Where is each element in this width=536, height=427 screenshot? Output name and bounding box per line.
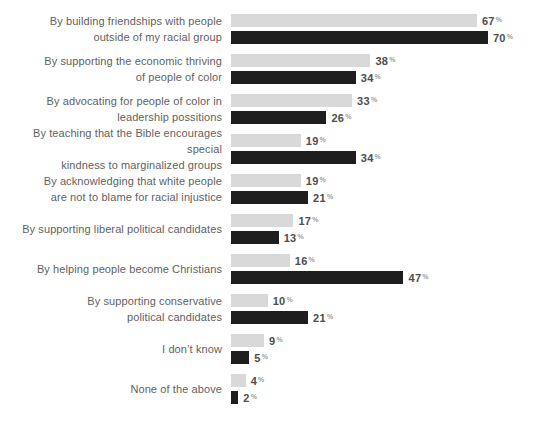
chart-group: By building friendships with peopleoutsi… [0, 14, 536, 44]
category-label: By supporting the economic thrivingof pe… [0, 53, 231, 85]
bar-pair: 9%5% [231, 334, 536, 364]
value-number: 13 [284, 232, 297, 244]
category-label-line: outside of my racial group [93, 31, 222, 43]
category-label: By advocating for people of color inlead… [0, 93, 231, 125]
value-label: 33% [357, 95, 377, 107]
value-number: 2 [243, 392, 249, 404]
chart-group: I don’t know9%5% [0, 334, 536, 364]
value-label: 38% [375, 55, 395, 67]
chart-page: By building friendships with peopleoutsi… [0, 0, 536, 427]
category-label-line: political candidates [127, 311, 222, 323]
value-number: 4 [251, 375, 257, 387]
value-label: 2% [243, 392, 257, 404]
category-label-line: By teaching that the Bible encourages sp… [33, 127, 222, 155]
bar-row: 17% [231, 214, 536, 227]
light-gray-bar [231, 214, 293, 227]
percent-sign: % [298, 233, 305, 240]
dark-bar [231, 191, 308, 204]
bar-pair: 19%21% [231, 174, 536, 204]
dark-bar [231, 391, 238, 404]
light-gray-bar [231, 254, 290, 267]
bar-row: 2% [231, 391, 536, 404]
value-number: 21 [313, 312, 326, 324]
bar-pair: 17%13% [231, 214, 536, 244]
category-label: By building friendships with peopleoutsi… [0, 13, 231, 45]
bar-row: 26% [231, 111, 536, 124]
value-number: 70 [493, 32, 506, 44]
value-label: 21% [313, 312, 333, 324]
percent-sign: % [375, 153, 382, 160]
category-label: By acknowledging that white peopleare no… [0, 173, 231, 205]
category-label: By supporting liberal political candidat… [0, 221, 231, 237]
category-label-line: I don’t know [162, 343, 222, 355]
value-label: 34% [361, 72, 381, 84]
chart-group: By supporting the economic thrivingof pe… [0, 54, 536, 84]
dark-bar [231, 111, 326, 124]
value-number: 47 [408, 272, 421, 284]
dark-bar [231, 231, 279, 244]
bar-row: 21% [231, 311, 536, 324]
category-label: By teaching that the Bible encourages sp… [0, 125, 231, 173]
category-label-line: of people of color [136, 71, 222, 83]
percent-sign: % [262, 353, 269, 360]
value-label: 5% [254, 352, 268, 364]
bar-row: 34% [231, 71, 536, 84]
value-label: 13% [284, 232, 304, 244]
bar-row: 4% [231, 374, 536, 387]
bar-row: 13% [231, 231, 536, 244]
percent-sign: % [312, 216, 319, 223]
bar-row: 19% [231, 174, 536, 187]
light-gray-bar [231, 294, 268, 307]
percent-sign: % [375, 73, 382, 80]
light-gray-bar [231, 334, 264, 347]
chart-group: By teaching that the Bible encourages sp… [0, 134, 536, 164]
percent-sign: % [422, 273, 429, 280]
bar-pair: 4%2% [231, 374, 536, 404]
value-label: 16% [295, 255, 315, 267]
bar-row: 10% [231, 294, 536, 307]
value-number: 38 [375, 55, 388, 67]
category-label-line: By supporting liberal political candidat… [22, 223, 222, 235]
bar-row: 67% [231, 14, 536, 27]
percent-sign: % [371, 96, 378, 103]
value-label: 26% [331, 112, 351, 124]
value-number: 16 [295, 255, 308, 267]
category-label-line: By building friendships with people [50, 15, 222, 27]
bar-pair: 67%70% [231, 14, 536, 44]
light-gray-bar [231, 174, 301, 187]
percent-sign: % [320, 136, 327, 143]
category-label-line: By helping people become Christians [37, 263, 222, 275]
percent-sign: % [507, 33, 514, 40]
bar-row: 5% [231, 351, 536, 364]
value-label: 9% [269, 335, 283, 347]
value-label: 19% [306, 135, 326, 147]
value-number: 17 [298, 215, 311, 227]
bar-row: 19% [231, 134, 536, 147]
bar-row: 38% [231, 54, 536, 67]
light-gray-bar [231, 374, 246, 387]
category-label: By helping people become Christians [0, 261, 231, 277]
light-gray-bar [231, 134, 301, 147]
percent-sign: % [496, 16, 503, 23]
percent-sign: % [320, 176, 327, 183]
value-label: 4% [251, 375, 265, 387]
percent-sign: % [327, 193, 334, 200]
category-label-line: are not to blame for racial injustice [51, 191, 222, 203]
dark-bar [231, 31, 488, 44]
chart-group: None of the above4%2% [0, 374, 536, 404]
bar-row: 33% [231, 94, 536, 107]
bar-row: 70% [231, 31, 536, 44]
bar-row: 9% [231, 334, 536, 347]
value-number: 67 [482, 15, 495, 27]
value-label: 17% [298, 215, 318, 227]
category-label-line: By supporting conservative [87, 295, 222, 307]
bar-pair: 10%21% [231, 294, 536, 324]
chart-group: By acknowledging that white peopleare no… [0, 174, 536, 204]
bar-pair: 16%47% [231, 254, 536, 284]
value-label: 47% [408, 272, 428, 284]
percent-sign: % [309, 256, 316, 263]
value-label: 34% [361, 152, 381, 164]
bar-pair: 19%34% [231, 134, 536, 164]
value-label: 70% [493, 32, 513, 44]
percent-sign: % [251, 393, 258, 400]
